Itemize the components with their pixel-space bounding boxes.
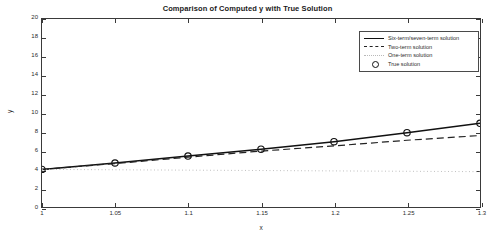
legend-label: One-term solution bbox=[388, 51, 432, 59]
legend-swatch-icon bbox=[363, 43, 385, 51]
y-axis-label: y bbox=[6, 110, 13, 113]
x-tick-label: 1.2 bbox=[331, 210, 339, 216]
legend-swatch-icon bbox=[363, 51, 385, 59]
x-tick-label: 1.05 bbox=[109, 210, 121, 216]
x-tick-label: 1.1 bbox=[184, 210, 192, 216]
line-sample-icon bbox=[364, 46, 384, 47]
page-title: Comparison of Computed y with True Solut… bbox=[0, 4, 495, 13]
y-tick-label: 2 bbox=[35, 185, 38, 191]
series-line bbox=[42, 169, 480, 171]
x-tick-label: 1 bbox=[40, 210, 43, 216]
x-tick-mark bbox=[482, 203, 483, 207]
circle-marker-icon bbox=[372, 61, 379, 68]
x-tick-label: 1.25 bbox=[403, 210, 415, 216]
x-tick-mark bbox=[482, 19, 483, 23]
y-tick-label: 8 bbox=[35, 128, 38, 134]
legend-swatch-icon bbox=[363, 60, 385, 68]
x-tick-label: 1.15 bbox=[256, 210, 268, 216]
legend-label: Two-term solution bbox=[388, 43, 432, 51]
y-tick-label: 18 bbox=[31, 33, 38, 39]
legend-swatch-icon bbox=[363, 34, 385, 42]
x-axis-label: x bbox=[41, 224, 481, 231]
y-tick-label: 10 bbox=[31, 109, 38, 115]
y-tick-label: 4 bbox=[35, 166, 38, 172]
legend-item[interactable]: Six-term/seven-term solution bbox=[363, 34, 475, 43]
x-tick-label: 1.3 bbox=[478, 210, 486, 216]
legend-label: Six-term/seven-term solution bbox=[388, 34, 459, 42]
legend-item[interactable]: One-term solution bbox=[363, 51, 475, 60]
y-tick-label: 16 bbox=[31, 52, 38, 58]
line-sample-icon bbox=[364, 38, 384, 39]
y-tick-label: 0 bbox=[35, 204, 38, 210]
y-tick-label: 20 bbox=[31, 14, 38, 20]
legend-item[interactable]: True solution bbox=[363, 60, 475, 69]
y-tick-label: 12 bbox=[31, 90, 38, 96]
line-sample-icon bbox=[364, 55, 384, 56]
legend-label: True solution bbox=[388, 60, 420, 68]
legend-item[interactable]: Two-term solution bbox=[363, 43, 475, 52]
y-tick-label: 14 bbox=[31, 71, 38, 77]
legend: Six-term/seven-term solutionTwo-term sol… bbox=[359, 31, 479, 72]
y-tick-label: 6 bbox=[35, 147, 38, 153]
figure-canvas: Comparison of Computed y with True Solut… bbox=[0, 0, 495, 242]
